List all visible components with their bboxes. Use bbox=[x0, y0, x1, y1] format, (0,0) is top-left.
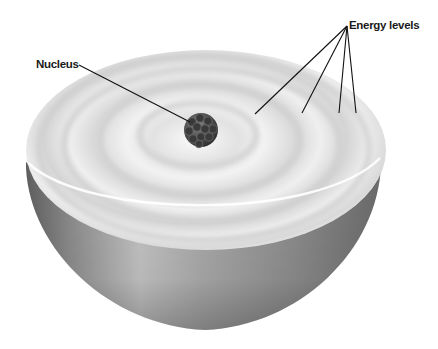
nucleus-label: Nucleus bbox=[36, 59, 79, 71]
atom-diagram: Nucleus Energy levels bbox=[0, 0, 438, 349]
cut-face bbox=[26, 50, 386, 250]
energy-levels-label: Energy levels bbox=[349, 20, 419, 32]
atom-illustration bbox=[0, 0, 438, 349]
